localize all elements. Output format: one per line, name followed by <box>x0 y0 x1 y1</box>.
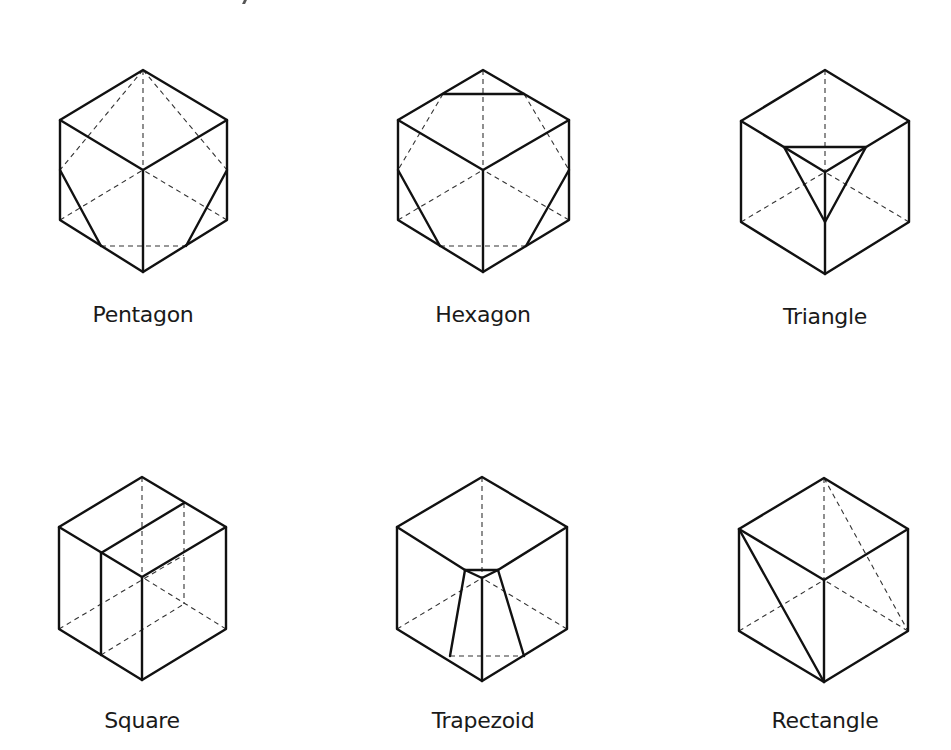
label-pentagon: Pentagon <box>43 302 243 327</box>
cube-rectangle <box>739 478 908 682</box>
label-rectangle: Rectangle <box>725 708 925 733</box>
cube-cross-sections-diagram <box>0 0 951 750</box>
cube-pentagon <box>60 70 227 272</box>
label-square: Square <box>42 708 242 733</box>
cube-square <box>59 477 226 680</box>
label-hexagon: Hexagon <box>383 302 583 327</box>
label-triangle: Triangle <box>725 304 925 329</box>
cube-hexagon <box>398 70 569 272</box>
label-trapezoid: Trapezoid <box>383 708 583 733</box>
cube-triangle <box>741 70 909 274</box>
cube-trapezoid <box>397 477 567 681</box>
